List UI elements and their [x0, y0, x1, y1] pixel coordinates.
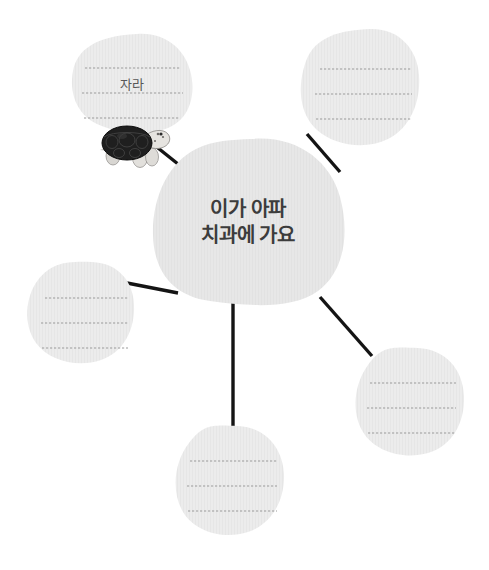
connector-bottom-right [320, 297, 372, 356]
worksheet-page: 이가 아파 치과에 가요 자라 [0, 0, 489, 570]
branch-bubble-bottom-center[interactable] [176, 426, 284, 536]
branch-bubble-bottom-right[interactable] [356, 348, 465, 456]
connector-left [127, 283, 178, 293]
branch-bubble-top-left[interactable] [72, 34, 193, 133]
mind-map-canvas [0, 0, 489, 570]
center-bubble[interactable] [153, 139, 345, 306]
turtle-illustration [100, 126, 170, 168]
branch-bubble-top-right[interactable] [301, 29, 419, 145]
branch-bubble-left[interactable] [27, 262, 134, 363]
